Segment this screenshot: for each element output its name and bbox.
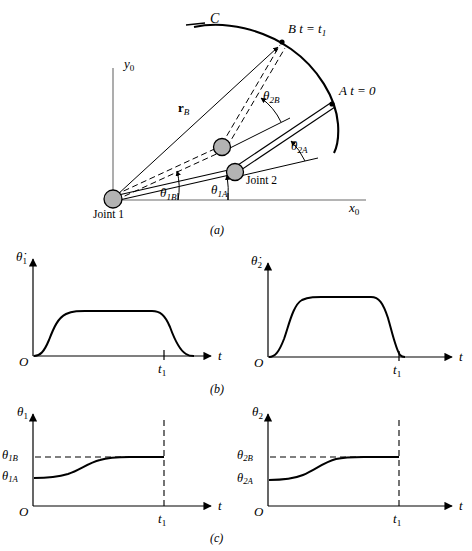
angle1-t1-label: t1 — [158, 512, 166, 528]
angle2-curve — [269, 457, 399, 480]
angle2-level-high-label: θ2B — [237, 449, 253, 463]
point-b-label: B t = t1 — [288, 22, 326, 38]
angle1-y-label: θ1 — [17, 405, 28, 421]
joint-2-circle-pose-b — [214, 139, 231, 156]
panel-c-chart-angle2 — [268, 414, 452, 506]
theta2b-label: θ2B — [263, 89, 280, 105]
panel-b-chart-velocity1 — [33, 259, 211, 360]
panel-c-chart-angle1 — [33, 414, 211, 506]
angle2-y-label: θ2 — [252, 405, 263, 421]
angle1-curve — [34, 457, 164, 478]
velocity1-origin-label: O — [19, 355, 28, 368]
angle1-x-label: t — [218, 499, 222, 512]
panel-a-diagram — [104, 23, 366, 208]
theta1b-label: θ1B — [160, 186, 177, 202]
y0-axis-label: y0 — [124, 57, 134, 73]
curve-c-label: C — [210, 12, 219, 26]
point-a-label: A t = 0 — [339, 84, 376, 97]
velocity1-curve — [34, 311, 194, 356]
theta1a-label: θ1A — [211, 183, 228, 199]
point-b-marker — [279, 39, 284, 44]
figure-root: C y0 x0 rB B t = t1 A t = 0 Joint 1 Join… — [0, 0, 472, 551]
velocity2-y-label: θ̇2 — [251, 254, 262, 270]
panel-a-label: (a) — [210, 223, 224, 238]
point-a-marker — [329, 101, 334, 106]
joint-1-circle — [104, 190, 122, 208]
angle2-x-label: t — [459, 499, 463, 512]
theta2a-label: θ2A — [291, 139, 308, 155]
panel-b-label: (b) — [210, 382, 224, 397]
angle1-origin-label: O — [19, 505, 28, 518]
x0-axis-label: x0 — [349, 201, 359, 217]
figure-svg — [0, 0, 472, 551]
theta2b-reference-ray — [228, 118, 290, 149]
velocity2-t1-label: t1 — [393, 363, 401, 379]
velocity1-t1-label: t1 — [158, 362, 166, 378]
panel-b-chart-velocity2 — [268, 263, 452, 361]
velocity1-y-label: θ̇1 — [16, 250, 27, 266]
angle1-level-high-label: θ1B — [2, 449, 18, 463]
joint-2-circle-pose-a — [227, 164, 244, 181]
joint-1-label: Joint 1 — [93, 208, 124, 220]
velocity2-curve — [269, 297, 405, 357]
velocity2-x-label: t — [459, 350, 463, 363]
velocity2-origin-label: O — [254, 356, 263, 369]
angle2-origin-label: O — [254, 505, 263, 518]
joint-2-label: Joint 2 — [246, 174, 277, 186]
vector-rb-label: rB — [178, 101, 189, 117]
panel-c-label: (c) — [210, 531, 223, 546]
angle2-t1-label: t1 — [393, 512, 401, 528]
velocity1-x-label: t — [218, 349, 222, 362]
angle1-level-low-label: θ1A — [2, 470, 18, 484]
angle2-level-low-label: θ2A — [237, 472, 253, 486]
